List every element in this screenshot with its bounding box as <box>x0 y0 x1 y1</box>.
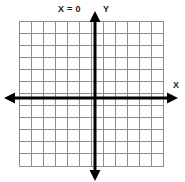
x-axis-left-arrowhead <box>4 93 15 104</box>
x-axis-right-arrowhead <box>167 93 178 104</box>
x-equals-zero-label: X = 0 <box>58 5 81 14</box>
x-axis-label: X <box>173 81 179 90</box>
y-axis-label: Y <box>103 5 109 14</box>
grid-area <box>19 21 164 167</box>
y-axis-bottom-arrowhead <box>90 170 101 181</box>
coordinate-grid-figure: X = 0 Y X <box>0 0 185 182</box>
grid-lines <box>19 21 164 167</box>
